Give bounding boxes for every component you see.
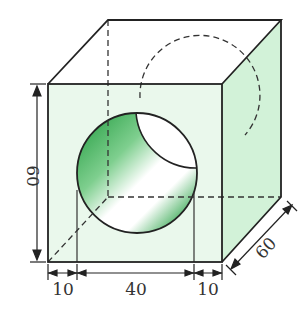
- bottom-left-label: 10: [52, 279, 74, 299]
- depth-label: 60: [251, 233, 280, 262]
- bottom-right-label: 10: [197, 279, 219, 299]
- height-label: 60: [23, 165, 43, 187]
- bottom-middle-label: 40: [125, 279, 147, 299]
- cube-diagram: 60 10 40 10 60: [0, 0, 305, 322]
- width-dimension: [48, 264, 222, 280]
